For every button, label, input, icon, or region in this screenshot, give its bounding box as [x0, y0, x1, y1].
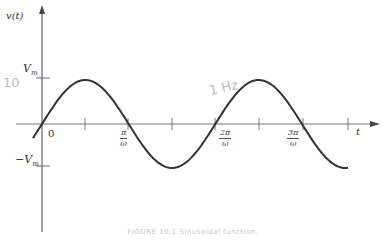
origin-label: 0: [48, 129, 54, 139]
pi-over-omega-label: πω: [120, 129, 127, 148]
two-pi-over-omega-label: 2πω: [219, 129, 231, 148]
y-axis-label: v(t): [6, 11, 23, 21]
sinusoid-plot: [0, 0, 386, 240]
neg-vm-label: −Vm: [15, 154, 39, 168]
y-axis-arrow-icon: [39, 5, 45, 14]
x-axis-arrow-icon: [370, 121, 380, 127]
x-axis-label: t: [356, 127, 360, 137]
three-pi-over-omega-label: 3πω: [287, 129, 299, 148]
vm-label: Vm: [23, 63, 38, 77]
handwritten-amplitude-note: 10: [3, 75, 20, 90]
figure-caption: FIGURE 10.1 Sinusoidal function.: [0, 228, 386, 236]
